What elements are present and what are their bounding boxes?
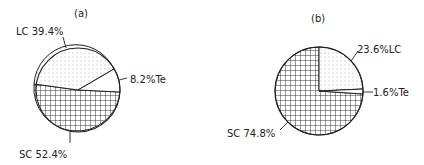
label-a-sc: SC 52.4% (19, 149, 67, 160)
figure-canvas: (a) LC 39.4% 8.2%Te SC 52.4% (b) 23.6%LC… (0, 0, 424, 165)
label-a-te: 8.2%Te (130, 74, 166, 85)
pie-chart-a: (a) LC 39.4% 8.2%Te SC 52.4% (16, 8, 166, 160)
label-a-lc: LC 39.4% (16, 26, 64, 37)
label-b-lc: 23.6%LC (357, 44, 401, 55)
label-b-te: 1.6%Te (373, 87, 409, 98)
leader-b-sc (280, 122, 288, 130)
label-b-sc: SC 74.8% (227, 128, 275, 139)
leader-a-te (119, 78, 127, 80)
chart-b-title: (b) (311, 13, 325, 24)
chart-a-title: (a) (74, 8, 88, 19)
pie-chart-b: (b) 23.6%LC 1.6%Te SC 74.8% (227, 13, 409, 139)
